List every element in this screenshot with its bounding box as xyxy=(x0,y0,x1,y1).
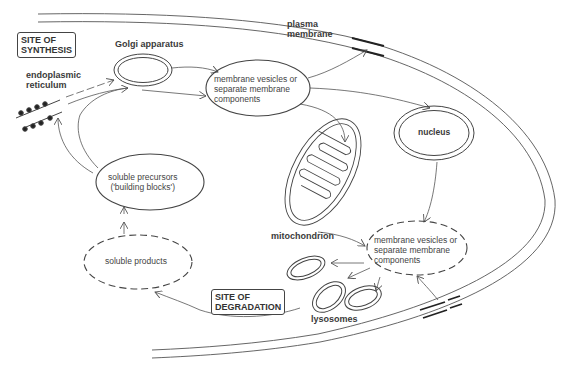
site-of-synthesis-box: SITE OF SYNTHESIS xyxy=(17,32,76,58)
vesicles-top-line3: components xyxy=(214,95,297,105)
site-degradation-line2: DEGRADATION xyxy=(215,302,281,312)
diagram-lines xyxy=(0,0,575,373)
products-label: soluble products xyxy=(105,257,167,267)
plasma-membrane-label: plasma membrane xyxy=(287,19,333,40)
plasma-label-line1: plasma xyxy=(287,19,333,29)
lysosomes-label: lysosomes xyxy=(311,314,358,324)
golgi-icon xyxy=(114,54,172,86)
membrane-turnover-diagram: SITE OF SYNTHESIS SITE OF DEGRADATION Go… xyxy=(0,0,575,373)
site-synthesis-line1: SITE OF xyxy=(21,35,72,45)
vesicles-bottom-label: membrane vesicles or separate membrane c… xyxy=(374,236,457,265)
precursors-label: soluble precursors ('building blocks') xyxy=(108,173,177,193)
site-synthesis-line2: SYNTHESIS xyxy=(21,45,72,55)
nucleus-label: nucleus xyxy=(418,128,450,138)
golgi-label: Golgi apparatus xyxy=(115,39,184,49)
vesicles-top-label: membrane vesicles or separate membrane c… xyxy=(214,75,297,104)
mitochondrion-label: mitochondrion xyxy=(271,231,334,241)
site-of-degradation-box: SITE OF DEGRADATION xyxy=(211,289,285,315)
precursors-line2: ('building blocks') xyxy=(108,183,177,193)
er-label-line2: reticulum xyxy=(26,80,81,90)
site-degradation-line1: SITE OF xyxy=(215,292,281,302)
vesicles-bottom-line3: components xyxy=(374,256,457,266)
mitochondrion-icon xyxy=(269,107,376,238)
plasma-label-line2: membrane xyxy=(287,29,333,39)
endoplasmic-reticulum-icon xyxy=(16,100,62,131)
er-label-line1: endoplasmic xyxy=(26,70,81,80)
er-label: endoplasmic reticulum xyxy=(26,70,81,91)
